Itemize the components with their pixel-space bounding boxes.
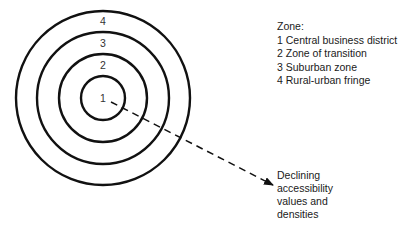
- legend-item-3: 3 Suburban zone: [277, 61, 397, 75]
- declining-gradient-arrow: [111, 102, 273, 185]
- annotation-line: densities: [277, 208, 367, 221]
- zone-2-label: 2: [100, 59, 106, 71]
- legend-item-1: 1 Central business district: [277, 34, 397, 48]
- annotation-line: accessibility: [277, 182, 367, 195]
- legend-title: Zone:: [277, 20, 397, 34]
- legend-item-4: 4 Rural-urban fringe: [277, 74, 397, 88]
- zone-1-label: 1: [100, 92, 106, 104]
- arrow-annotation: Declining accessibility values and densi…: [277, 169, 367, 221]
- zone-4-label: 4: [100, 15, 106, 27]
- annotation-line: values and: [277, 195, 367, 208]
- legend-item-2: 2 Zone of transition: [277, 47, 397, 61]
- zone-legend: Zone: 1 Central business district 2 Zone…: [277, 20, 397, 88]
- annotation-line: Declining: [277, 169, 367, 182]
- zone-3-label: 3: [100, 37, 106, 49]
